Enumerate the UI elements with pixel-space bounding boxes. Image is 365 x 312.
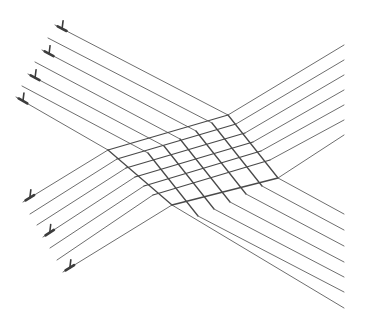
ascending-line-7 (63, 135, 344, 272)
diagram-canvas (0, 0, 365, 312)
ascending-line-1 (23, 45, 344, 202)
descending-line-7 (16, 93, 344, 308)
line-crossing-diagram (0, 0, 365, 312)
t-marker-icon (26, 190, 35, 201)
descending-line-4 (35, 62, 344, 262)
ascending-lines (23, 45, 344, 272)
t-marker-icon (58, 21, 67, 31)
descending-lines (16, 21, 344, 308)
ascending-line-5 (50, 105, 344, 248)
t-marker-icon (66, 260, 75, 271)
descending-line-1 (55, 21, 344, 214)
t-marker-icon (46, 225, 54, 236)
t-marker-icon (19, 93, 28, 103)
t-marker-icon (31, 70, 40, 80)
descending-line-2 (48, 38, 344, 230)
ascending-line-3 (37, 75, 344, 225)
ascending-line-2 (30, 60, 344, 214)
ascending-line-4 (43, 90, 344, 237)
t-marker-icon (45, 46, 54, 56)
descending-line-3 (42, 46, 344, 246)
